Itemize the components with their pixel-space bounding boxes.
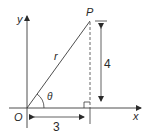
- x-axis-label: x: [133, 111, 139, 122]
- horizontal-length-label: 3: [53, 121, 60, 133]
- hypotenuse-label: r: [54, 51, 58, 62]
- angle-label: θ: [47, 92, 52, 102]
- vertical-length-label: 4: [104, 58, 111, 70]
- point-label: P: [86, 7, 93, 18]
- hypotenuse-line: [27, 21, 90, 108]
- y-axis-label: y: [17, 14, 23, 25]
- angle-arc: [37, 94, 44, 108]
- right-angle-marker: [84, 102, 90, 108]
- diagram-canvas: y P r 4 θ O x 3: [0, 0, 147, 135]
- origin-label: O: [14, 112, 23, 123]
